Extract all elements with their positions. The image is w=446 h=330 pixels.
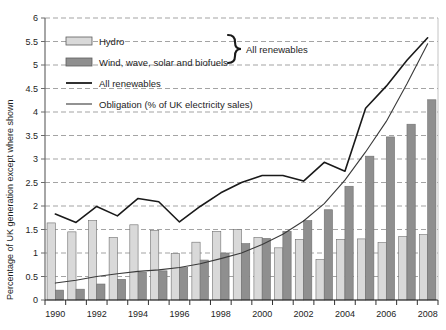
bar-hydro-1994 (130, 225, 138, 300)
bar-hydro-1999 (233, 230, 241, 301)
legend-swatch-icon (66, 37, 92, 45)
legend-label: Hydro (99, 36, 124, 47)
bar-wind-2000 (262, 238, 270, 300)
bar-wind-2006 (386, 137, 394, 300)
x-tick-label-1990: 1990 (45, 309, 65, 319)
bar-hydro-2007 (399, 237, 407, 300)
legend-swatch-icon (66, 58, 92, 66)
brace-label: All renewables (246, 44, 308, 55)
y-tick-label: 1.5 (25, 225, 38, 235)
legend-label: All renewables (99, 78, 161, 89)
bar-wind-1997 (200, 260, 208, 300)
x-tick-label-1992: 1992 (87, 309, 107, 319)
bar-wind-1996 (179, 268, 187, 300)
bar-series-layer (47, 100, 436, 300)
bar-hydro-2005 (357, 239, 365, 300)
y-tick-label: 5 (33, 60, 38, 70)
x-tick-label-1994: 1994 (128, 309, 148, 319)
bar-wind-2001 (283, 231, 291, 300)
bar-hydro-2003 (316, 260, 324, 300)
bar-wind-2005 (366, 156, 374, 300)
legend-label: Wind, wave, solar and biofuels (99, 57, 228, 68)
bar-wind-2008 (428, 100, 436, 300)
bar-wind-2003 (324, 210, 332, 300)
bar-hydro-2001 (275, 248, 283, 300)
y-tick-label: 0 (33, 295, 38, 305)
bar-wind-1990 (55, 290, 63, 300)
y-tick-label: 0.5 (25, 272, 38, 282)
x-tick-label-2008: 2008 (418, 309, 438, 319)
bar-hydro-2006 (378, 243, 386, 300)
bar-wind-1993 (117, 279, 125, 300)
y-axis-title: Percentage of UK generation except where… (5, 99, 15, 300)
x-tick-label-2002: 2002 (294, 309, 314, 319)
bar-wind-1991 (76, 289, 84, 300)
x-tick-label-2000: 2000 (252, 309, 272, 319)
bar-hydro-2004 (337, 239, 345, 300)
bar-hydro-1990 (47, 223, 55, 300)
bar-hydro-1991 (68, 232, 76, 300)
y-tick-label: 1 (33, 248, 38, 258)
y-tick-label: 4.5 (25, 84, 38, 94)
y-tick-label: 3 (33, 154, 38, 164)
bar-wind-1994 (138, 272, 146, 300)
y-tick-label: 4 (33, 107, 38, 117)
bar-wind-2004 (345, 186, 353, 300)
bar-hydro-2002 (295, 239, 303, 300)
curly-brace-icon (228, 35, 241, 63)
y-tick-label: 5.5 (25, 37, 38, 47)
bar-wind-1995 (159, 271, 167, 300)
x-axis-ticks: 1990199219941996199820002002200420062008 (45, 300, 438, 319)
y-tick-label: 2 (33, 201, 38, 211)
bar-hydro-1995 (150, 230, 158, 300)
bar-hydro-1993 (109, 237, 117, 300)
y-tick-label: 3.5 (25, 131, 38, 141)
y-axis-ticks: 00.511.522.533.544.555.56 (25, 13, 45, 305)
bar-hydro-1998 (213, 231, 221, 300)
bar-wind-1998 (221, 253, 229, 300)
bar-wind-2007 (407, 124, 415, 300)
x-tick-label-1998: 1998 (211, 309, 231, 319)
bar-hydro-2008 (419, 235, 427, 300)
x-tick-label-2006: 2006 (376, 309, 396, 319)
x-tick-label-1996: 1996 (169, 309, 189, 319)
all-renewables-brace-annotation: All renewables (228, 35, 308, 63)
chart-legend: HydroWind, wave, solar and biofuelsAll r… (66, 36, 253, 110)
renewables-chart: 00.511.522.533.544.555.56 19901992199419… (0, 0, 446, 330)
legend-label: Obligation (% of UK electricity sales) (99, 99, 253, 110)
y-tick-label: 6 (33, 13, 38, 23)
chart-container: 00.511.522.533.544.555.56 19901992199419… (0, 0, 446, 330)
bar-wind-2002 (304, 221, 312, 300)
bar-wind-1992 (97, 284, 105, 300)
y-tick-label: 2.5 (25, 178, 38, 188)
bar-hydro-1992 (88, 221, 96, 300)
x-tick-label-2004: 2004 (335, 309, 355, 319)
bar-hydro-1996 (171, 253, 179, 300)
bar-hydro-1997 (192, 242, 200, 300)
